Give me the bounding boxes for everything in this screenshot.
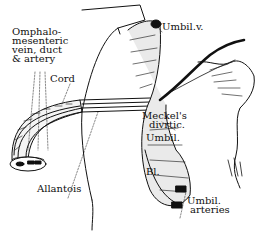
umbilical-cord xyxy=(10,98,150,171)
label-allantois: Allantois xyxy=(37,184,81,193)
label-umbil: Umbil. xyxy=(146,133,180,142)
label-meckels-diverticulum: Meckel's divrtic. xyxy=(142,111,187,129)
label-umbilical-vein: Umbil.v. xyxy=(162,22,204,31)
label-umbilical-arteries: Umbil. arteries xyxy=(187,196,230,214)
label-line: & artery xyxy=(12,54,68,63)
label-cord: Cord xyxy=(50,74,75,83)
label-line: arteries xyxy=(187,205,230,214)
label-bladder: Bl. xyxy=(146,167,160,176)
label-line: divrtic. xyxy=(142,120,187,129)
label-omphalomesenteric: Omphalo- mesenteric vein, duct & artery xyxy=(12,27,68,63)
mesentery xyxy=(198,61,254,188)
